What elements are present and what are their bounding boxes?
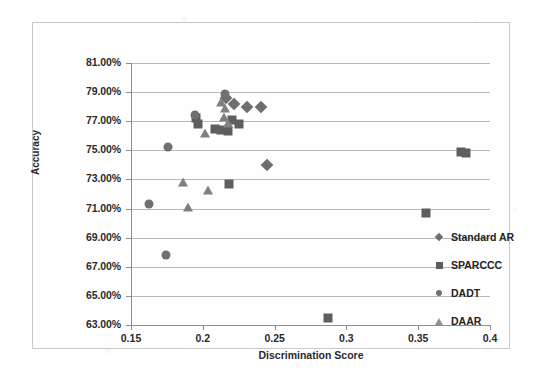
y-axis-tick-label: 71.00% (33, 202, 121, 214)
chart-frame: Accuracy 63.00%65.00%67.00%69.00%71.00%7… (32, 22, 510, 349)
data-point-triangle (200, 128, 210, 137)
legend-item-label: DADT (451, 287, 480, 299)
x-axis-tick (203, 325, 204, 330)
y-axis-tick-label: 75.00% (33, 143, 121, 155)
y-axis-tick-label: 77.00% (33, 114, 121, 126)
x-axis-tick-label: 0.2 (180, 332, 226, 344)
x-axis-tick-label: 0.3 (323, 332, 369, 344)
x-axis-tick (346, 325, 347, 330)
y-axis-tick-label: 67.00% (33, 260, 121, 272)
data-point-circle (144, 200, 153, 209)
data-point-triangle (223, 118, 233, 127)
x-axis-tick (418, 325, 419, 330)
data-point-circle (163, 143, 172, 152)
diamond-marker-icon (432, 234, 446, 240)
data-point-square (224, 179, 233, 188)
x-axis-tick (131, 325, 132, 330)
data-point-square (223, 127, 232, 136)
data-point-triangle (203, 185, 213, 194)
data-point-circle (162, 251, 171, 260)
data-point-square (462, 148, 471, 157)
data-point-triangle (178, 178, 188, 187)
legend-item[interactable]: SPARCCC (432, 251, 542, 279)
x-axis-title: Discrimination Score (131, 349, 491, 361)
circle-marker-icon (432, 290, 446, 296)
data-point-triangle (220, 104, 230, 113)
y-axis-tick-label: 73.00% (33, 172, 121, 184)
y-axis-tick-label: 63.00% (33, 318, 121, 330)
y-axis-tick-label: 81.00% (33, 56, 121, 68)
y-axis-tick-label: 79.00% (33, 85, 121, 97)
data-point-square (324, 313, 333, 322)
y-axis-tick-label: 69.00% (33, 231, 121, 243)
legend-item-label: SPARCCC (451, 259, 502, 271)
triangle-marker-icon (432, 318, 446, 325)
legend-item[interactable]: Standard AR (432, 223, 542, 251)
x-axis-tick-label: 0.25 (252, 332, 298, 344)
legend-item-label: Standard AR (451, 231, 514, 243)
legend-item-label: DAAR (451, 315, 481, 327)
square-marker-icon (432, 262, 446, 269)
data-point-triangle (183, 203, 193, 212)
data-point-square (194, 120, 203, 129)
chart-legend: Standard ARSPARCCCDADTDAAR (432, 223, 542, 335)
data-point-circle (190, 111, 199, 120)
x-axis-tick (275, 325, 276, 330)
data-point-square (235, 120, 244, 129)
legend-item[interactable]: DAAR (432, 307, 542, 335)
legend-item[interactable]: DADT (432, 279, 542, 307)
data-point-square (422, 208, 431, 217)
data-point-circle (221, 89, 230, 98)
y-axis-tick-label: 65.00% (33, 289, 121, 301)
x-axis-tick-label: 0.15 (108, 332, 154, 344)
